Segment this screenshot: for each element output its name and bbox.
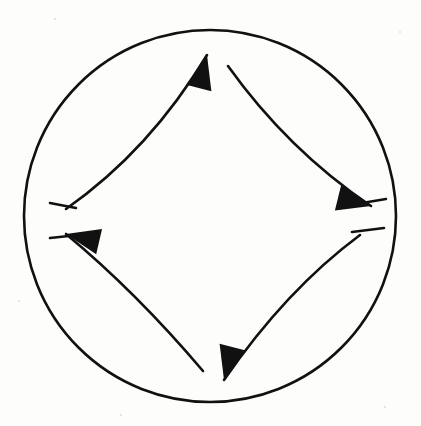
arrow-shaft-left-to-top bbox=[66, 55, 207, 209]
circular-arrow-diagram bbox=[0, 0, 421, 426]
arrow-shaft-top-to-right bbox=[228, 66, 371, 206]
figure-root bbox=[0, 0, 421, 426]
arrow-shaft-group bbox=[66, 55, 371, 380]
arrow-shaft-right-to-bottom bbox=[224, 235, 360, 380]
arrowhead-bottom-right bbox=[220, 344, 245, 380]
arrowhead-group bbox=[66, 55, 371, 380]
arrow-tail-stub-right-lower bbox=[352, 228, 384, 232]
arrowhead-top-left bbox=[186, 55, 211, 91]
arrow-shaft-bottom-to-left bbox=[66, 234, 203, 371]
arrowhead-right-upper bbox=[335, 185, 371, 210]
